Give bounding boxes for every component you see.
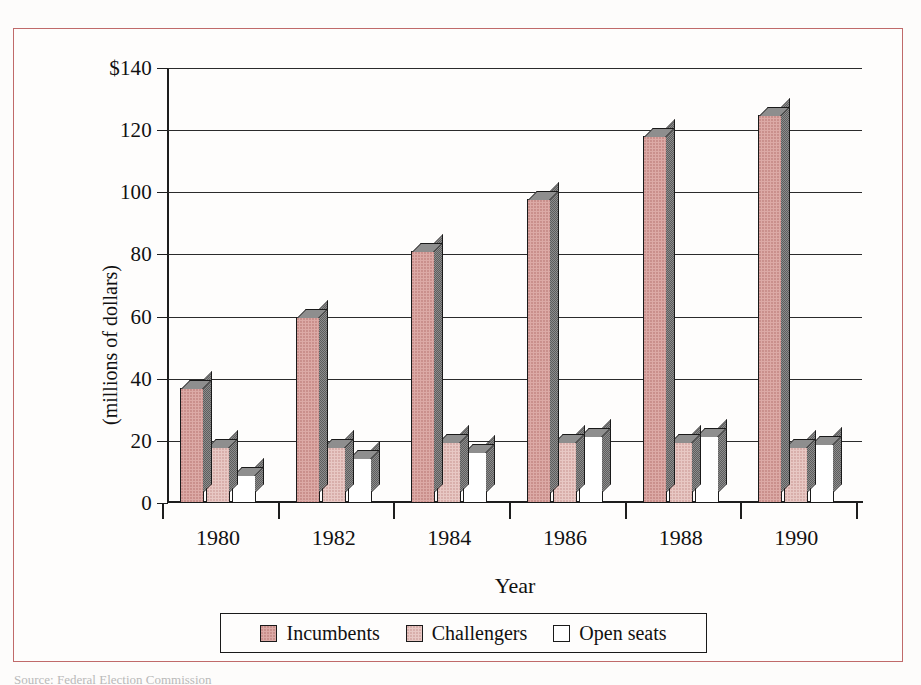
legend-label: Challengers: [432, 622, 528, 645]
bar-group: 1986: [515, 68, 631, 503]
bar-group: 1988: [631, 68, 747, 503]
x-axis-label: 1980: [196, 525, 240, 551]
x-axis-tick: [625, 503, 627, 519]
bar-incumbents-1982: [296, 317, 320, 503]
bar-incumbents-1990: [758, 115, 782, 503]
y-axis-title: (millions of dollars): [99, 265, 122, 425]
bar-incumbents-1980: [180, 388, 204, 503]
y-axis-label: 20: [131, 428, 152, 453]
x-axis-label: 1990: [774, 525, 818, 551]
bar-side-face: [781, 98, 790, 493]
legend-item-incumbents: Incumbents: [260, 622, 379, 645]
y-axis-label: 40: [131, 366, 152, 391]
x-axis-label: 1988: [659, 525, 703, 551]
x-axis-tick: [856, 503, 858, 519]
x-axis-label: 1986: [543, 525, 587, 551]
x-axis-tick: [509, 503, 511, 519]
y-axis-tick: [157, 317, 168, 318]
bar-side-face: [371, 441, 380, 493]
bar-side-face: [666, 119, 675, 493]
bar-side-face: [434, 234, 443, 493]
bar-group: 1984: [399, 68, 515, 503]
bar-chart: (millions of dollars) 020406080100120$14…: [13, 28, 903, 662]
x-axis-label: 1984: [427, 525, 471, 551]
swatch-open-seats: [553, 625, 570, 642]
legend-label: Open seats: [579, 622, 666, 645]
plot-area: 020406080100120$140 19801982198419861988…: [168, 68, 862, 503]
bar-group: 1982: [284, 68, 400, 503]
x-axis-label: 1982: [312, 525, 356, 551]
chart-legend: IncumbentsChallengersOpen seats: [220, 613, 707, 653]
swatch-incumbents: [260, 625, 277, 642]
y-axis-tick: [157, 379, 168, 380]
y-axis-label: 60: [131, 304, 152, 329]
bar-incumbents-1984: [411, 251, 435, 503]
x-axis-tick: [278, 503, 280, 519]
x-axis-tick: [393, 503, 395, 519]
y-axis-tick: [157, 130, 168, 131]
y-axis-tick: [157, 441, 168, 442]
y-axis-label: 0: [141, 491, 152, 516]
bar-group: 1980: [168, 68, 284, 503]
y-axis-tick: [157, 68, 168, 69]
legend-item-open-seats: Open seats: [553, 622, 666, 645]
legend-label: Incumbents: [286, 622, 379, 645]
y-axis-tick: [157, 192, 168, 193]
bar-side-face: [255, 458, 264, 493]
y-axis-label: 100: [120, 180, 152, 205]
legend-item-challengers: Challengers: [406, 622, 528, 645]
bar-group: 1990: [746, 68, 862, 503]
scanned-figure-page: (millions of dollars) 020406080100120$14…: [0, 0, 921, 685]
y-axis-tick: [157, 254, 168, 255]
figure-caption: Source: Federal Election Commission: [14, 672, 714, 685]
swatch-challengers: [406, 625, 423, 642]
y-axis-label: $140: [109, 56, 152, 81]
bar-side-face: [203, 371, 212, 493]
x-axis-title: Year: [168, 573, 862, 599]
bar-side-face: [550, 182, 559, 494]
bar-side-face: [319, 300, 328, 493]
bar-incumbents-1986: [527, 199, 551, 504]
x-axis-tick: [740, 503, 742, 519]
bar-incumbents-1988: [643, 136, 667, 503]
y-axis-label: 120: [120, 118, 152, 143]
x-axis-tick: [162, 503, 164, 519]
y-axis-label: 80: [131, 242, 152, 267]
